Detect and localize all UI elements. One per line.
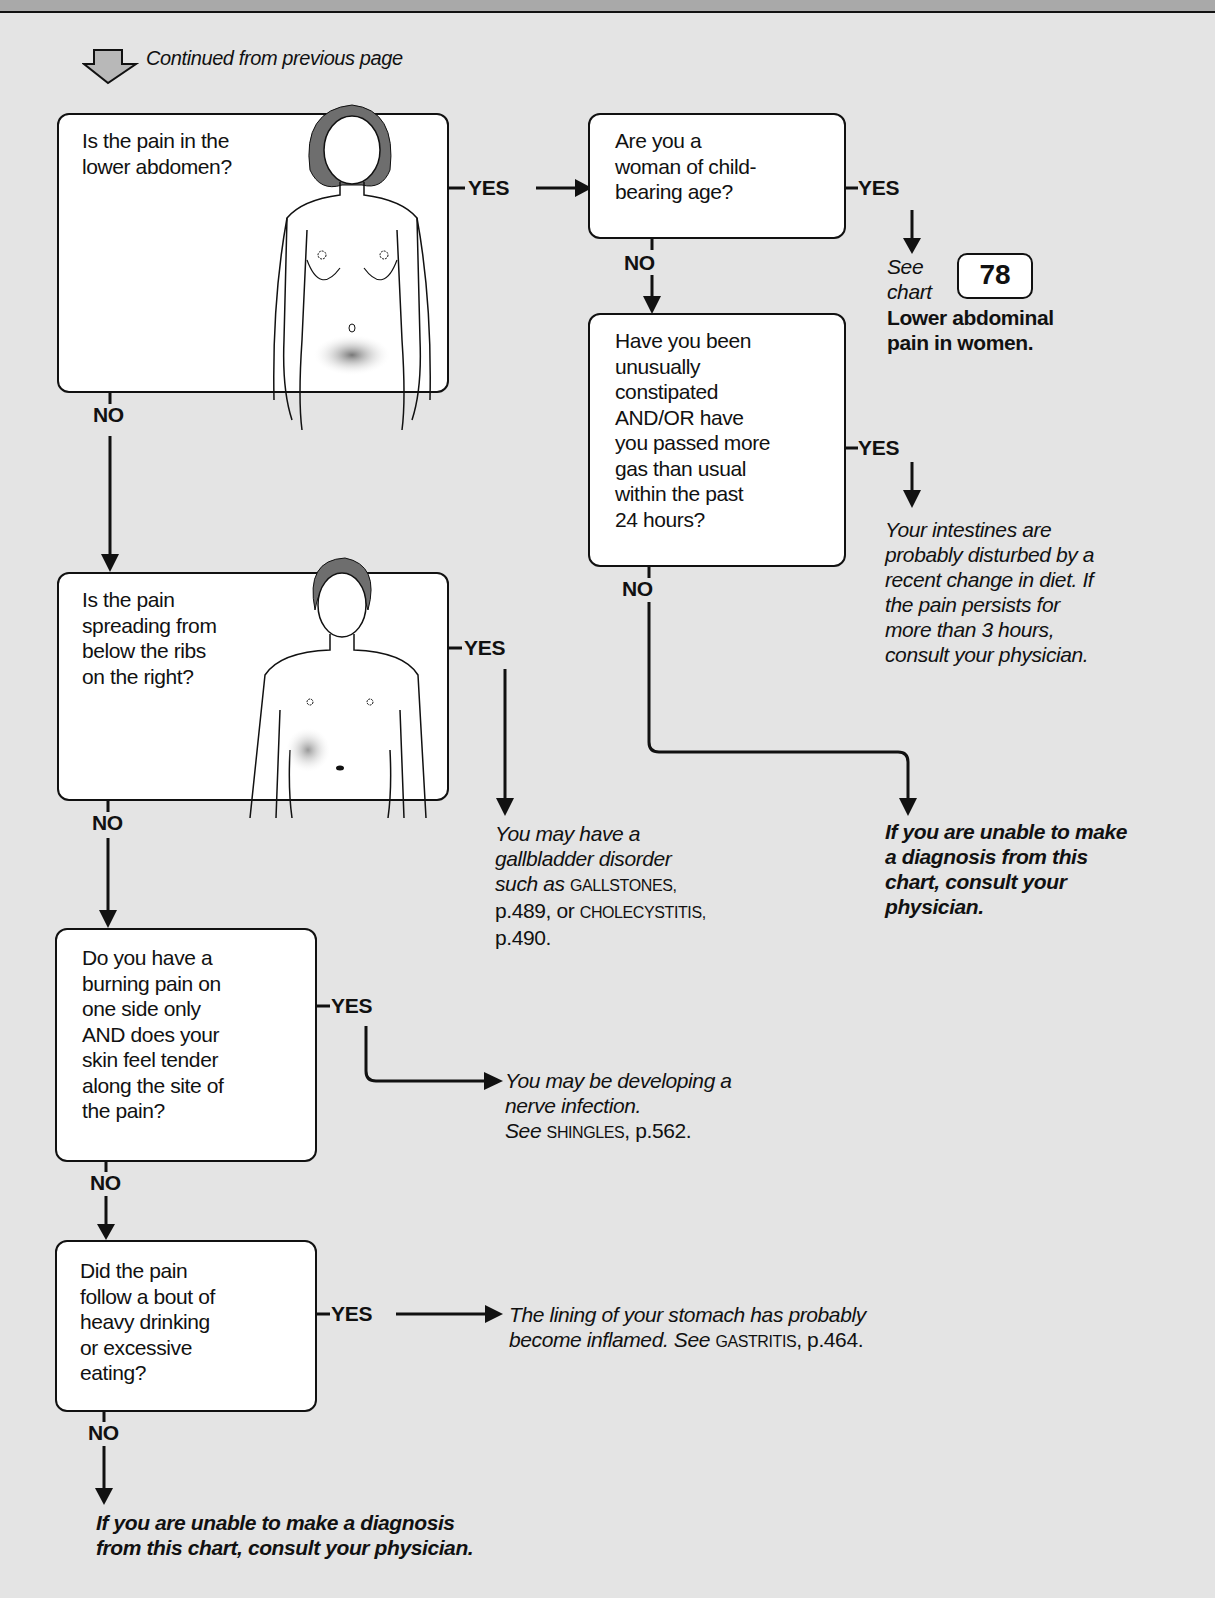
yes-label-q2: YES: [858, 176, 899, 200]
yes-label-q4: YES: [464, 636, 505, 660]
outcome-unable-diagnose-bottom: If you are unable to make a diagnosisfro…: [96, 1510, 473, 1560]
no-label-q3: NO: [622, 577, 653, 601]
yes-label-q3: YES: [858, 436, 899, 460]
no-label-q5: NO: [90, 1171, 121, 1195]
yes-label-q6: YES: [331, 1302, 372, 1326]
continued-label: Continued from previous page: [146, 47, 403, 70]
outcome-unable-diagnose-right: If you are unable to makea diagnosis fro…: [885, 819, 1127, 919]
chart-78-title: Lower abdominalpain in women.: [887, 305, 1054, 355]
female-figure-illustration: [262, 100, 442, 430]
yes-label-q5: YES: [331, 994, 372, 1018]
top-page-band: [0, 0, 1215, 13]
no-label-q4: NO: [92, 811, 123, 835]
male-figure-illustration: [240, 550, 430, 818]
see-chart-text: Seechart: [887, 254, 932, 304]
outcome-gastritis: The lining of your stomach has probably …: [509, 1302, 866, 1354]
outcome-gallbladder: You may have a gallbladder disorder such…: [495, 821, 706, 950]
outcome-intestines: Your intestines areprobably disturbed by…: [885, 517, 1094, 667]
question-text-q3: Have you beenunusuallyconstipatedAND/OR …: [615, 328, 770, 532]
no-label-q1: NO: [93, 403, 124, 427]
no-label-q2: NO: [624, 251, 655, 275]
outcome-shingles: You may be developing a nerve infection.…: [505, 1068, 732, 1145]
yes-label-q1: YES: [468, 176, 509, 200]
question-text-q6: Did the painfollow a bout ofheavy drinki…: [80, 1258, 215, 1386]
question-text-q1: Is the pain in thelower abdomen?: [82, 128, 232, 179]
question-text-q4: Is the painspreading frombelow the ribso…: [82, 587, 216, 689]
hollow-down-arrow-icon: [82, 48, 140, 86]
question-text-q5: Do you have aburning pain onone side onl…: [82, 945, 223, 1124]
question-text-q2: Are you awoman of child-bearing age?: [615, 128, 756, 205]
chart-reference-78[interactable]: 78: [957, 253, 1033, 299]
no-label-q6: NO: [88, 1421, 119, 1445]
